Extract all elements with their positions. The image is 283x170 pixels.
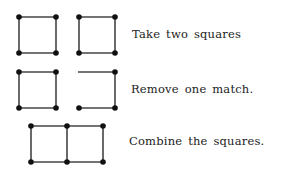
- square-1-row-1: [19, 17, 56, 53]
- square-1-row-2: [19, 72, 56, 108]
- step-1-caption: Take two squares: [132, 27, 241, 41]
- step-2-caption: Remove one match.: [131, 82, 253, 96]
- open-square-row-2: [78, 72, 115, 108]
- combined-squares-row-3: [31, 126, 103, 162]
- step-3-caption: Combine the squares.: [129, 134, 264, 148]
- square-2-row-1: [79, 17, 115, 53]
